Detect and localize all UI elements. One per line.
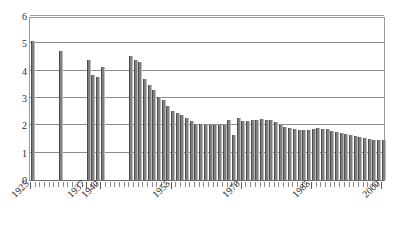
bar [31,41,35,180]
y-axis-tick-label: 5 [3,39,27,49]
bar [377,140,381,180]
bar [176,113,180,180]
bar [251,120,255,180]
bar [194,124,198,180]
bar [87,60,91,180]
gridline [30,15,384,16]
bar [91,75,95,180]
bar [279,125,283,180]
bar [265,120,269,180]
bar [302,130,306,180]
bar [363,138,367,180]
bar [134,60,138,180]
bar [293,129,297,180]
bar [232,135,236,180]
bar [180,115,184,180]
x-axis-labels: 1925193719401955197019852000 [0,186,405,232]
bar [185,118,189,180]
bar [283,127,287,180]
y-axis-tick-label: 3 [3,94,27,104]
bar [152,90,156,180]
bar [321,129,325,180]
bar [96,77,100,180]
bar [372,140,376,180]
bar [162,100,166,180]
bar [349,135,353,180]
bar [288,128,292,180]
bar [312,129,316,180]
bar [368,139,372,180]
bar [166,106,170,180]
bar [260,119,264,180]
bar-chart: 0123456 1925193719401955197019852000 [0,0,405,232]
bar [274,122,278,180]
bar [246,121,250,180]
plot-area [29,17,385,181]
bar [171,111,175,180]
bar [340,133,344,180]
bar [190,121,194,180]
bar [101,67,105,180]
bar [330,131,334,180]
y-axis-tick-label: 2 [3,121,27,131]
bar [213,125,217,180]
bar [218,125,222,180]
bar [298,130,302,180]
bar [255,120,259,180]
bar [326,129,330,180]
bar [316,128,320,180]
bar [269,120,273,180]
bar [227,120,231,180]
bar [344,134,348,180]
bar [223,125,227,180]
bar [209,125,213,180]
bar [143,79,147,180]
bar [129,56,133,180]
y-axis-tick-label: 4 [3,67,27,77]
bar [382,140,386,180]
bars-layer [30,18,384,180]
bar [59,51,63,180]
bar [199,124,203,180]
y-axis: 0123456 [0,12,27,186]
bar [138,62,142,180]
y-axis-tick-label: 1 [3,149,27,159]
bar [241,121,245,180]
bar [335,132,339,180]
bar [358,137,362,180]
bar [354,136,358,180]
bar [307,130,311,180]
bar [148,85,152,180]
bar [237,118,241,180]
bar [204,125,208,180]
y-axis-tick-label: 6 [3,12,27,22]
bar [157,97,161,180]
